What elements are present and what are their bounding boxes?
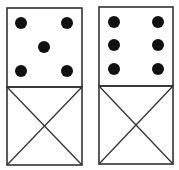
bottom-half-crossed (99, 86, 173, 164)
bottom-half-crossed (7, 87, 82, 165)
top-half (7, 8, 82, 87)
pip (38, 41, 50, 53)
pip (152, 39, 164, 51)
pip (152, 63, 164, 75)
pip (15, 17, 27, 29)
pip (108, 39, 120, 51)
top-half (99, 7, 173, 86)
pip (15, 65, 27, 77)
pip (61, 65, 73, 77)
dominoes-diagram (0, 0, 179, 170)
pip (61, 17, 73, 29)
pip (152, 16, 164, 28)
domino-right (99, 7, 173, 164)
pip (108, 63, 120, 75)
pip (108, 16, 120, 28)
domino-left (7, 8, 82, 165)
